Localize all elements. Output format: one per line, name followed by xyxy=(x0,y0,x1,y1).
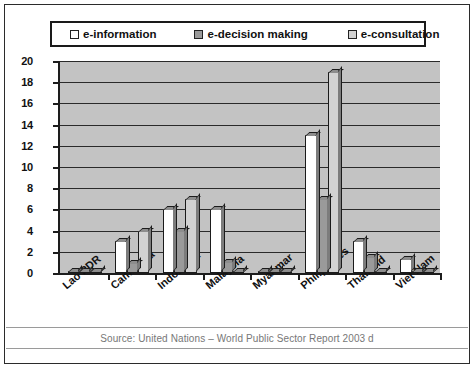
bar-top-face xyxy=(233,268,249,272)
y-axis-tick-label: 2 xyxy=(27,246,33,258)
gridline xyxy=(60,61,440,62)
x-axis-tick-mark xyxy=(440,273,442,280)
x-axis-tick-mark xyxy=(203,273,205,280)
bar xyxy=(258,271,269,273)
y-axis-tick-label: 18 xyxy=(21,76,33,88)
y-axis-tick-label: 16 xyxy=(21,97,33,109)
bar xyxy=(412,271,423,273)
x-axis-tick-mark xyxy=(393,273,395,280)
gridline xyxy=(60,209,440,210)
bar xyxy=(210,209,221,273)
y-axis-tick-label: 20 xyxy=(21,55,33,67)
plot-area xyxy=(58,61,440,275)
y-axis-tick-label: 0 xyxy=(27,267,33,279)
bar-side-face xyxy=(148,225,152,272)
y-axis-tick-label: 8 xyxy=(27,182,33,194)
gridline xyxy=(60,167,440,168)
gridline xyxy=(60,231,440,232)
bar-top-face xyxy=(375,268,391,272)
bar xyxy=(423,271,434,273)
chart-figure: e-information e-decision making e-consul… xyxy=(4,4,470,364)
bar xyxy=(68,271,79,273)
bar-side-face xyxy=(338,66,342,272)
bar xyxy=(353,241,364,273)
bar xyxy=(233,271,244,273)
y-axis-tick-label: 10 xyxy=(21,161,33,173)
bar-side-face xyxy=(363,235,367,272)
source-text: Source: United Nations – World Public Se… xyxy=(100,333,374,344)
bar-side-face xyxy=(221,204,225,272)
bar xyxy=(115,241,126,273)
bar xyxy=(280,271,291,273)
bar-side-face xyxy=(184,225,188,272)
bar-side-face xyxy=(327,193,331,272)
y-axis-tick-label: 6 xyxy=(27,203,33,215)
y-axis-tick-label: 14 xyxy=(21,119,33,131)
gridline xyxy=(60,188,440,189)
source-bar: Source: United Nations – World Public Se… xyxy=(6,327,468,349)
plot-wrapper: 02468101214161820 Lao PDRCambodiaIndones… xyxy=(5,5,471,365)
bar xyxy=(79,271,90,273)
y-axis-tick-label: 4 xyxy=(27,225,33,237)
gridline xyxy=(60,146,440,147)
bar-side-face xyxy=(126,235,130,272)
gridline xyxy=(60,125,440,126)
bar xyxy=(269,271,280,273)
gridline xyxy=(60,103,440,104)
bar xyxy=(400,259,411,273)
x-axis-tick-mark xyxy=(108,273,110,280)
x-axis-tick-mark xyxy=(298,273,300,280)
bar xyxy=(90,271,101,273)
bar-side-face xyxy=(173,204,177,272)
y-axis-tick-label: 12 xyxy=(21,140,33,152)
gridline xyxy=(60,82,440,83)
bar-side-face xyxy=(316,129,320,272)
bar xyxy=(305,135,316,273)
bar xyxy=(375,271,386,273)
bar xyxy=(163,209,174,273)
bar-side-face xyxy=(196,193,200,272)
